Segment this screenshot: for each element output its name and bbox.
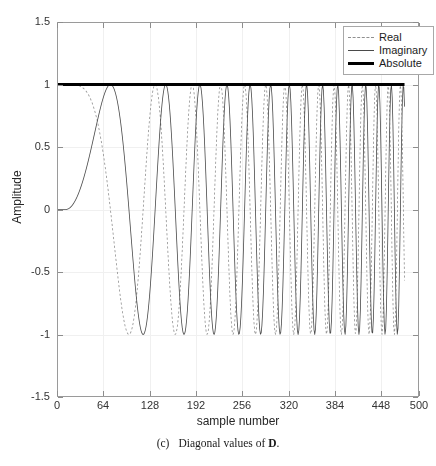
x-tick-label: 500 [399, 400, 436, 411]
legend-entry-absolute[interactable]: Absolute [348, 57, 427, 70]
x-tick-mark [335, 391, 336, 396]
x-tick-mark [242, 23, 243, 28]
caption-period: . [276, 437, 279, 449]
x-tick-label: 128 [130, 400, 170, 411]
figure-panel: 1.510.50-0.5-1-1.5 064128192256320384448… [0, 0, 436, 466]
y-tick-mark [58, 335, 63, 336]
chart-plot-area [58, 23, 418, 396]
legend-label-real: Real [379, 31, 402, 44]
x-axis-label: sample number [57, 414, 419, 428]
x-tick-label: 384 [315, 400, 355, 411]
y-tick-label: 0.5 [0, 141, 50, 152]
x-tick-mark [196, 391, 197, 396]
x-tick-mark [196, 23, 197, 28]
y-tick-mark [413, 335, 418, 336]
x-tick-mark [103, 391, 104, 396]
y-tick-mark [413, 22, 418, 23]
caption-tag: (c) [157, 437, 170, 449]
thick-line-icon [348, 59, 374, 69]
x-tick-label: 192 [176, 400, 216, 411]
figure-caption: (c)Diagonal values of D. [0, 437, 436, 449]
x-tick-mark [289, 23, 290, 28]
y-tick-mark [413, 210, 418, 211]
x-tick-mark [150, 391, 151, 396]
x-tick-label: 0 [37, 400, 77, 411]
x-tick-mark [419, 391, 420, 396]
x-tick-mark [57, 23, 58, 28]
legend-entry-imaginary[interactable]: Imaginary [348, 44, 427, 57]
legend-label-imaginary: Imaginary [379, 44, 427, 57]
x-tick-mark [335, 23, 336, 28]
chart-legend[interactable]: Real Imaginary Absolute [343, 26, 434, 75]
x-tick-mark [381, 391, 382, 396]
x-tick-label: 448 [361, 400, 401, 411]
caption-text: Diagonal values of [178, 437, 265, 449]
y-tick-mark [58, 272, 63, 273]
y-axis-label: Amplitude [10, 147, 24, 247]
y-tick-label: 1.5 [0, 16, 50, 27]
y-tick-mark [58, 22, 63, 23]
y-tick-mark [58, 210, 63, 211]
x-tick-label: 64 [83, 400, 123, 411]
x-tick-mark [242, 391, 243, 396]
y-tick-mark [413, 272, 418, 273]
y-tick-mark [413, 397, 418, 398]
legend-label-absolute: Absolute [379, 57, 422, 70]
y-tick-label: 0 [0, 204, 50, 215]
y-tick-mark [413, 147, 418, 148]
y-tick-mark [58, 85, 63, 86]
x-tick-mark [57, 391, 58, 396]
x-tick-label: 256 [222, 400, 262, 411]
x-tick-mark [150, 23, 151, 28]
y-tick-label: -0.5 [0, 266, 50, 277]
y-tick-mark [58, 397, 63, 398]
y-tick-mark [413, 85, 418, 86]
legend-entry-real[interactable]: Real [348, 31, 427, 44]
dashed-line-icon [348, 33, 374, 43]
solid-line-icon [348, 46, 374, 56]
y-tick-label: 1 [0, 79, 50, 90]
x-tick-mark [289, 391, 290, 396]
y-tick-label: -1 [0, 329, 50, 340]
x-tick-label: 320 [269, 400, 309, 411]
x-tick-mark [103, 23, 104, 28]
y-tick-mark [58, 147, 63, 148]
